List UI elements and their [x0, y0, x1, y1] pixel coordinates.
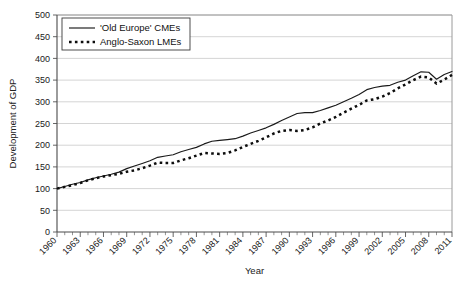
y-tick-label: 500: [35, 10, 50, 20]
y-tick-label: 150: [35, 162, 50, 172]
x-tick-label: 2008: [409, 235, 430, 256]
legend-label: Anglo-Saxon LMEs: [100, 36, 182, 47]
x-tick-label: 2011: [433, 235, 454, 256]
y-tick-label: 200: [35, 140, 50, 150]
x-tick-label: 2005: [386, 235, 407, 256]
x-tick-label: 1972: [130, 235, 151, 256]
x-tick-label: 2002: [362, 235, 383, 256]
y-tick-label: 300: [35, 97, 50, 107]
x-tick-label: 1990: [270, 235, 291, 256]
y-axis-title: Development of GDP: [7, 79, 18, 169]
x-axis-ticks: 1960196319661969197219751978198119841987…: [37, 232, 453, 257]
chart-legend: 'Old Europe' CMEsAnglo-Saxon LMEs: [62, 18, 190, 50]
y-tick-label: 250: [35, 119, 50, 129]
x-tick-label: 1966: [84, 235, 105, 256]
x-tick-label: 1975: [153, 235, 174, 256]
x-tick-label: 1993: [293, 235, 314, 256]
y-axis-ticks: 050100150200250300350400450500: [35, 10, 57, 237]
y-tick-label: 0: [45, 227, 50, 237]
y-tick-label: 50: [40, 206, 50, 216]
x-tick-label: 1963: [60, 235, 81, 256]
y-tick-label: 450: [35, 32, 50, 42]
y-tick-label: 100: [35, 184, 50, 194]
x-tick-label: 1999: [339, 235, 360, 256]
y-tick-label: 350: [35, 75, 50, 85]
x-axis-title: Year: [245, 265, 264, 276]
data-series-group: [57, 71, 452, 188]
chart-figure: 050100150200250300350400450500 196019631…: [0, 0, 471, 285]
x-tick-label: 1996: [316, 235, 337, 256]
series-line-1: [57, 71, 452, 188]
x-tick-label: 1987: [246, 235, 267, 256]
legend-label: 'Old Europe' CMEs: [100, 22, 180, 33]
x-tick-label: 1981: [200, 235, 221, 256]
y-tick-label: 400: [35, 54, 50, 64]
x-tick-label: 1978: [177, 235, 198, 256]
gdp-development-line-chart: 050100150200250300350400450500 196019631…: [0, 0, 471, 285]
x-tick-label: 1969: [107, 235, 128, 256]
x-tick-label: 1960: [37, 235, 58, 256]
x-tick-label: 1984: [223, 235, 244, 256]
